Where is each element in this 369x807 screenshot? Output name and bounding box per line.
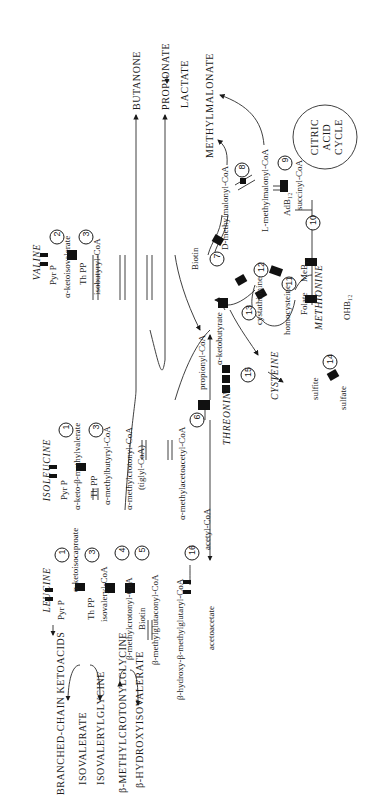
alpha-keto-beta-methylvalerate: α-keto-β-methylvalerate: [72, 423, 82, 510]
product-mcg: β-METHYLCROTONYLGLYCINE: [117, 632, 128, 793]
isovaleryl-coa: isovaleryl-CoA: [99, 566, 109, 622]
step-1-leucine: 1: [57, 549, 67, 554]
val-cofactor-2: Pyr P: [48, 265, 58, 285]
step-circles: [50, 156, 337, 562]
pathway-diagram: LEUCINE Pyr P 1 α-ketoisocaproate Th PP …: [0, 0, 369, 807]
ohb12: OHB₁₂: [342, 295, 352, 320]
ile-cofactor-3: Th PP: [89, 476, 99, 498]
leu-cofactor-1: Pyr P: [56, 600, 66, 620]
product-isovalerylglycine: ISOVALERYLGLYCINE: [95, 671, 106, 785]
hmg-coa: β-hydroxy-β-methylglutaryl-CoA: [175, 578, 185, 700]
val-cofactor-3: Th PP: [78, 263, 88, 285]
amino-acid-leucine: LEUCINE: [42, 567, 52, 613]
step-14: 14: [325, 354, 335, 364]
acetoacetate: acetoacetate: [206, 606, 216, 650]
acetyl-coa: acetyl-CoA: [202, 508, 212, 550]
alpha-ketoisocaproate: α-ketoisocaproate: [70, 528, 80, 592]
product-lactate: LACTATE: [179, 60, 190, 108]
step-10: 10: [308, 215, 318, 225]
cofactor-adb12: AdB₁₂: [282, 193, 292, 216]
step-5: 5: [137, 547, 147, 552]
cofactor-biotin-7: Biotin: [190, 247, 200, 270]
alpha-methylbutyryl-coa: α-methylbutyryl-CoA: [102, 426, 112, 505]
pathway-svg: LEUCINE Pyr P 1 α-ketoisocaproate Th PP …: [0, 0, 369, 807]
cystathionine: cystathionine: [254, 277, 264, 325]
amino-acid-valine: VALINE: [32, 244, 42, 280]
step-3-isoleucine: 3: [91, 424, 101, 429]
step-15: 15: [243, 367, 253, 377]
amino-acid-methionine: METHIONINE: [314, 264, 324, 331]
cofactor-folate: Folate: [299, 292, 309, 315]
leu-cofactor-3: Th PP: [86, 598, 96, 620]
step-12: 12: [256, 262, 266, 272]
product-isovalerate: ISOVALERATE: [77, 712, 88, 785]
product-bcka: BRANCHED-CHAIN KETOACIDS: [55, 632, 66, 795]
beta-methylglutaconyl-coa: β-methylglutaconyl-CoA: [150, 574, 160, 665]
propionyl-coa: propionyl-CoA: [197, 335, 207, 390]
step-6: 6: [192, 414, 202, 419]
tca-line-1: CITRIC: [309, 119, 320, 155]
amino-acid-cysteine: CYSTEINE: [270, 351, 280, 400]
step-3-valine: 3: [81, 231, 91, 236]
product-hiva: β-HYDROXYISOVALERATE: [134, 651, 145, 788]
alpha-ketobutyrate: α-ketobutyrate: [214, 312, 224, 365]
alpha-methylcrotonyl-coa: α-methylcrotonyl-CoA: [124, 427, 134, 510]
isobutyryl-coa: isobutyryl-CoA: [92, 238, 102, 295]
step-13: 13: [244, 305, 254, 315]
step-2: 2: [52, 231, 62, 236]
tiglyl-coa: (tiglyl-CoA): [136, 445, 146, 490]
sulfate: sulfate: [338, 386, 348, 410]
step-7: 7: [212, 253, 222, 258]
leu-cofactor-biotin: Biotin: [137, 607, 147, 630]
cofactor-meb12: MeB₁₂: [299, 258, 309, 282]
step-11: 11: [284, 276, 294, 285]
amino-acid-isoleucine: ISOLEUCINE: [42, 439, 52, 502]
alpha-ketoisovalerate: α-ketoisovalerate: [62, 236, 72, 298]
product-propionate: PROPIONATE: [160, 43, 171, 110]
step-4: 4: [117, 547, 127, 552]
ile-cofactor-1: Pyr P: [59, 480, 69, 500]
product-butanone: BUTANONE: [131, 51, 142, 110]
amino-acid-threonine: THREONINE: [222, 386, 232, 445]
step-3-leucine: 3: [87, 549, 97, 554]
alpha-methylacetoacetyl-coa: α-methylacetoacetyl-CoA: [177, 426, 187, 520]
step-1-isoleucine: 1: [61, 424, 71, 429]
homocysteine: homocysteine: [282, 285, 292, 335]
step-9: 9: [280, 157, 290, 162]
d-methylmalonyl-coa: D-methylmalonyl-CoA: [220, 166, 230, 250]
tca-line-3: CYCLE: [333, 119, 344, 155]
tca-line-2: ACID: [321, 124, 332, 151]
l-methylmalonyl-coa: L-methylmalonyl-CoA: [260, 149, 270, 232]
step-16: 16: [187, 545, 197, 555]
sulfite: sulfite: [310, 377, 320, 400]
succinyl-coa: succinyl-CoA: [294, 160, 304, 210]
step-8: 8: [237, 164, 247, 169]
product-methylmalonate: METHYLMALONATE: [204, 53, 215, 158]
